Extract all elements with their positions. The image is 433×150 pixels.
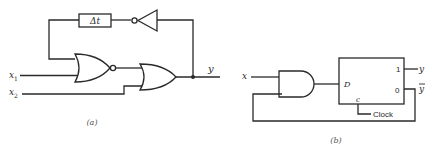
x-input-label: x xyxy=(242,71,247,81)
nor-gate xyxy=(75,54,110,82)
inverter-gate xyxy=(138,10,157,31)
delay-label: Δt xyxy=(89,16,100,26)
inverter-bubble xyxy=(132,18,137,23)
junction-dot xyxy=(191,75,195,79)
output-0-label: 0 xyxy=(395,86,400,95)
d-input-label: D xyxy=(343,80,351,89)
clock-label: Clock xyxy=(373,110,394,119)
output-1-label: 1 xyxy=(396,65,401,74)
or-gate xyxy=(140,64,176,90)
output-y-label: y xyxy=(207,63,214,74)
figure-a-caption: (a) xyxy=(86,118,97,127)
clock-input-label: c xyxy=(356,96,360,104)
feedback-wire-left xyxy=(49,20,79,59)
and-gate xyxy=(279,71,314,97)
output-y-bar-label: y xyxy=(418,84,425,94)
x2-wire xyxy=(22,86,143,94)
nor-bubble xyxy=(110,65,115,70)
output-y-label-b: y xyxy=(418,64,425,74)
figure-b-caption: (b) xyxy=(330,136,341,145)
figure-a: Δt x1 x2 y (a) xyxy=(9,10,220,127)
clock-wire xyxy=(358,104,371,114)
circuit-diagrams: Δt x1 x2 y (a) x xyxy=(0,0,433,150)
x2-label: x2 xyxy=(9,87,18,99)
figure-b: x D 1 0 c y y Clock (b) xyxy=(242,58,425,145)
x1-label: x1 xyxy=(9,70,18,82)
